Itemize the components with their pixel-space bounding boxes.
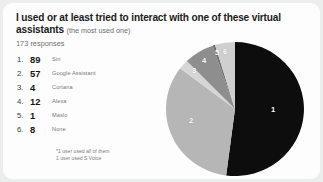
legend-label: Maslo [52, 112, 67, 118]
footnote-line-1: *1 user used all of them [56, 148, 110, 155]
pie-slice-label-2: 2 [189, 116, 193, 125]
legend-rank: 4. [17, 97, 30, 106]
title-main-text: I used or at least tried to interact wit… [16, 12, 281, 35]
legend-value: 1 [30, 110, 52, 121]
legend-rank: 6. [17, 125, 30, 134]
title-note-text: (the most used one) [67, 26, 131, 35]
chart-card: I used or at least tried to interact wit… [3, 3, 320, 179]
footnote: *1 user used all of them 1 user used S V… [56, 148, 110, 162]
pie-slice-label-4: 4 [202, 56, 206, 65]
legend-rank: 3. [17, 83, 30, 92]
footnote-line-2: 1 user used S Voice [56, 155, 110, 162]
list-item: 5. 1 Maslo [17, 108, 147, 122]
legend-value: 57 [30, 68, 52, 79]
legend-rank: 1. [17, 55, 30, 64]
pie-slice-label-5: 5 [215, 48, 219, 57]
legend-label: Alexa [52, 98, 67, 104]
list-item: 1. 89 Siri [17, 52, 147, 66]
legend-value: 89 [30, 54, 52, 65]
legend-label: Cortana [52, 84, 73, 90]
legend-value: 8 [30, 124, 52, 135]
pie-slices [166, 42, 304, 176]
response-count: 173 responses [16, 39, 64, 48]
page-title: I used or at least tried to interact wit… [16, 12, 306, 38]
legend-rank: 2. [17, 69, 30, 78]
legend-label: Google Assistant [52, 70, 96, 76]
pie-chart: 1 2 3 4 5 6 [163, 40, 307, 178]
legend-value: 4 [30, 82, 52, 93]
pie-slice-label-3: 3 [192, 66, 196, 75]
legend-list: 1. 89 Siri 2. 57 Google Assistant 3. 4 C… [17, 52, 147, 136]
legend-label: Siri [52, 56, 60, 62]
pie-slice-1 [226, 42, 304, 176]
legend-rank: 5. [17, 111, 30, 120]
list-item: 2. 57 Google Assistant [17, 66, 147, 80]
pie-chart-svg [163, 40, 307, 178]
list-item: 3. 4 Cortana [17, 80, 147, 94]
list-item: 6. 8 None [17, 122, 147, 136]
legend-value: 12 [30, 96, 52, 107]
list-item: 4. 12 Alexa [17, 94, 147, 108]
pie-slice-label-1: 1 [271, 105, 275, 114]
pie-slice-label-6: 6 [223, 47, 227, 56]
legend-label: None [52, 126, 66, 132]
